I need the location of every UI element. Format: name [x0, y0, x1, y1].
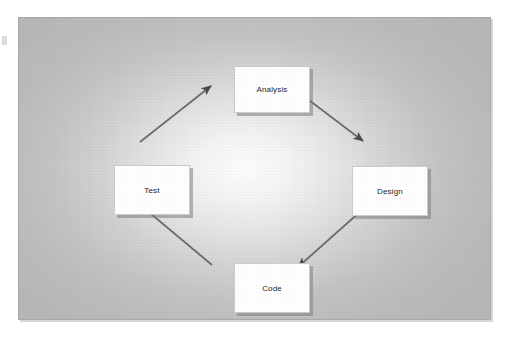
node-design-label: Design — [377, 187, 403, 196]
node-test-label: Test — [144, 186, 159, 195]
node-code-label: Code — [262, 284, 282, 293]
node-test[interactable]: Test — [114, 165, 190, 215]
lifecycle-diagram: Analysis Design Code Test — [0, 0, 508, 340]
diagram-panel: Analysis Design Code Test — [18, 17, 491, 320]
node-analysis-label: Analysis — [257, 85, 288, 94]
node-analysis[interactable]: Analysis — [234, 66, 310, 113]
node-design[interactable]: Design — [352, 166, 428, 216]
edge-test-to-analysis — [140, 86, 211, 142]
scan-artifact — [2, 36, 7, 45]
node-code[interactable]: Code — [234, 263, 310, 313]
